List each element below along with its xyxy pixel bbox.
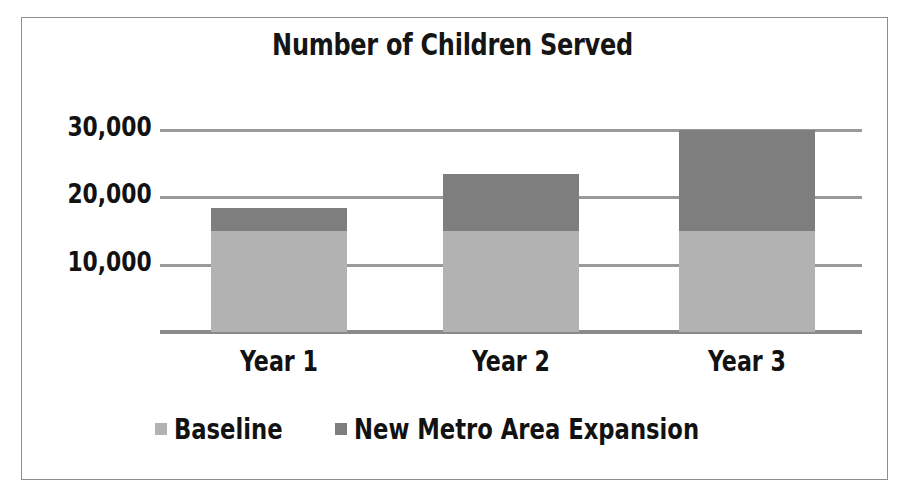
bar-group-year-3[interactable] [679, 130, 815, 332]
plot-area [160, 110, 862, 332]
y-axis-tick-label: 20,000 [68, 178, 152, 209]
legend-label-baseline: Baseline [174, 412, 283, 446]
legend-entry-expansion[interactable]: New Metro Area Expansion [335, 412, 751, 446]
bar-segment-baseline[interactable] [211, 231, 347, 332]
chart-figure: Number of Children Served 10,00020,00030… [0, 0, 905, 500]
y-axis-tick-label: 10,000 [68, 246, 152, 277]
legend-swatch-baseline-icon [155, 423, 167, 435]
y-axis-tick-label: 30,000 [68, 111, 152, 142]
x-axis-tick-label-year-3: Year 3 [668, 345, 826, 378]
bar-segment-new-metro-area-expansion[interactable] [443, 174, 579, 231]
bar-segment-baseline[interactable] [443, 231, 579, 332]
x-axis-tick-label-year-2: Year 2 [432, 345, 590, 378]
bar-group-year-2[interactable] [443, 174, 579, 332]
legend-entry-baseline[interactable]: Baseline [155, 412, 299, 446]
chart-legend: Baseline New Metro Area Expansion [0, 412, 905, 446]
x-axis-tick-label-year-1: Year 1 [200, 345, 358, 378]
bar-group-year-1[interactable] [211, 208, 347, 332]
legend-swatch-expansion-icon [335, 423, 347, 435]
bar-segment-new-metro-area-expansion[interactable] [679, 130, 815, 231]
bar-segment-baseline[interactable] [679, 231, 815, 332]
legend-label-expansion: New Metro Area Expansion [354, 412, 699, 446]
bar-segment-new-metro-area-expansion[interactable] [211, 208, 347, 232]
chart-title: Number of Children Served [63, 26, 841, 62]
